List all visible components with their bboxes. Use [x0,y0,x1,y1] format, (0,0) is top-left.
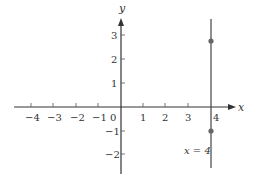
x-tick-label: 3 [185,112,191,123]
x-tick-label: −4 [25,112,40,123]
x-tick-label: −1 [92,112,107,123]
x-tick-label: 2 [162,112,168,123]
y-tick-label: −2 [105,149,120,160]
y-tick-label: 3 [111,30,117,41]
graph-canvas: x y −4 −3 −2 −1 0 1 2 3 4 3 2 1 [0,0,254,182]
y-tick-labels: 3 2 1 −1 −2 [105,30,120,160]
x-tick-label: 4 [213,112,219,123]
x-axis-label: x [238,101,245,114]
y-tick-label: 1 [111,78,117,89]
y-tick-label: 2 [111,54,117,65]
x-axis-arrow-icon [228,104,236,110]
y-axis-arrow-icon [118,18,124,26]
x-tick-label: −3 [47,112,62,123]
line-annotation: x = 4 [184,145,211,156]
x-tick-labels: −4 −3 −2 −1 0 1 2 3 4 [25,112,219,123]
point-upper [208,38,213,43]
y-axis-label: y [118,2,126,15]
point-lower [208,128,213,133]
y-tick-label: −1 [105,126,120,137]
x-tick-label: 0 [110,112,116,123]
x-tick-label: 1 [140,112,146,123]
x-tick-label: −2 [70,112,85,123]
